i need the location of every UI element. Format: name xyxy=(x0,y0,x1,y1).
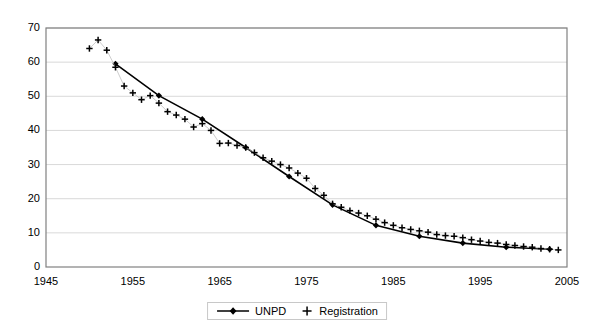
y-axis-tick-40: 40 xyxy=(8,123,40,135)
line-diamond-marker-icon xyxy=(216,305,250,317)
x-axis-tick-1945: 1945 xyxy=(21,275,71,287)
y-axis-tick-10: 10 xyxy=(8,226,40,238)
legend-item-registration[interactable]: Registration xyxy=(300,305,378,317)
y-axis-tick-20: 20 xyxy=(8,192,40,204)
y-axis-tick-50: 50 xyxy=(8,89,40,101)
y-axis-tick-30: 30 xyxy=(8,158,40,170)
x-axis-tick-1995: 1995 xyxy=(455,275,505,287)
x-axis-tick-1985: 1985 xyxy=(368,275,418,287)
chart-legend: UNPD Registration xyxy=(207,302,387,320)
plot-area-border xyxy=(46,28,567,267)
y-axis-tick-60: 60 xyxy=(8,55,40,67)
gridlines xyxy=(46,28,567,233)
x-axis-tick-2005: 2005 xyxy=(542,275,592,287)
legend-item-unpd[interactable]: UNPD xyxy=(216,305,286,317)
x-axis-tick-1955: 1955 xyxy=(108,275,158,287)
y-axis-tick-0: 0 xyxy=(8,260,40,272)
plus-marker-icon xyxy=(300,305,314,317)
legend-label-registration: Registration xyxy=(319,305,378,317)
chart-container: 010203040506070 194519551965197519851995… xyxy=(0,0,594,330)
x-axis-tick-1965: 1965 xyxy=(195,275,245,287)
series-registration xyxy=(86,37,561,253)
series-unpd xyxy=(112,61,552,253)
x-axis-tick-1975: 1975 xyxy=(282,275,332,287)
legend-label-unpd: UNPD xyxy=(255,305,286,317)
y-axis-tick-70: 70 xyxy=(8,21,40,33)
